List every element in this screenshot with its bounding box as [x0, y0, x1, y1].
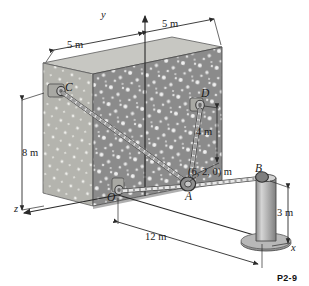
dimension-3m-label: 3 m	[277, 208, 293, 219]
point-a-coordinates-label: (6, 2, 0) m	[188, 167, 232, 178]
point-a-label: A	[185, 191, 192, 203]
dimension-right-5m-label: 5 m	[162, 19, 178, 30]
dimension-left-5m-label: 5 m	[67, 40, 83, 51]
dimension-4m-label: 4 m	[196, 127, 212, 138]
dimension-8m-label: 8 m	[22, 148, 38, 159]
axis-x-label: x	[291, 243, 296, 254]
axis-z-label: z	[14, 204, 18, 215]
axis-y-label: y	[101, 10, 106, 21]
figure-caption: P2-9	[277, 274, 297, 283]
point-d-label: D	[201, 88, 209, 100]
dimension-12m	[118, 198, 262, 268]
figure-container: y z x 5 m 5 m 8 m 4 m 12 m 3 m C D A B O…	[0, 0, 309, 286]
point-c-label: C	[65, 82, 73, 94]
point-o-label: O	[107, 192, 115, 204]
dimension-12m-label: 12 m	[145, 232, 166, 243]
diagram-canvas	[0, 0, 309, 286]
point-b-label: B	[255, 163, 262, 175]
